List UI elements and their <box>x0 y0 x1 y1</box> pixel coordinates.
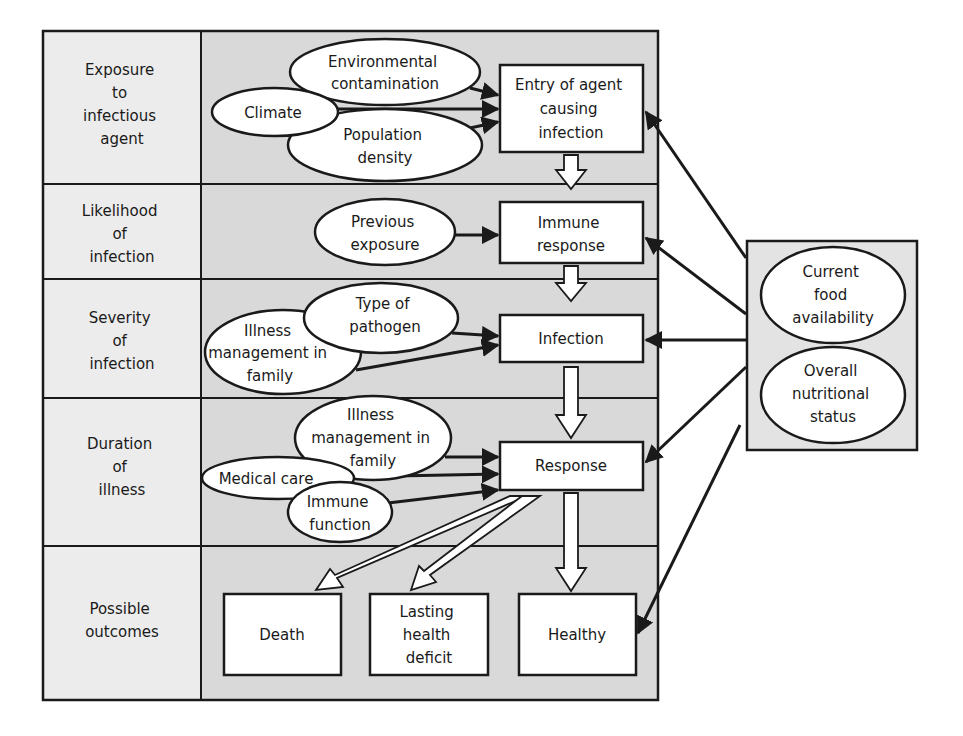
label-healthy: Healthy <box>548 626 606 644</box>
label-climate: Climate <box>244 104 302 122</box>
oval-previous-exposure <box>315 199 455 265</box>
label-lasting-health-deficit: Lasting health deficit <box>399 603 458 667</box>
label-response: Response <box>535 457 607 475</box>
arrow-nutrition-to-entry <box>646 112 746 258</box>
arrow-nutrition-to-immune <box>646 238 746 314</box>
label-medical-care: Medical care <box>219 470 314 488</box>
label-infection: Infection <box>538 330 603 348</box>
arrow-nutrition-to-response <box>646 367 746 462</box>
label-death: Death <box>259 626 304 644</box>
diagram-canvas: Exposure to infectious agent Likelihood … <box>0 0 963 736</box>
